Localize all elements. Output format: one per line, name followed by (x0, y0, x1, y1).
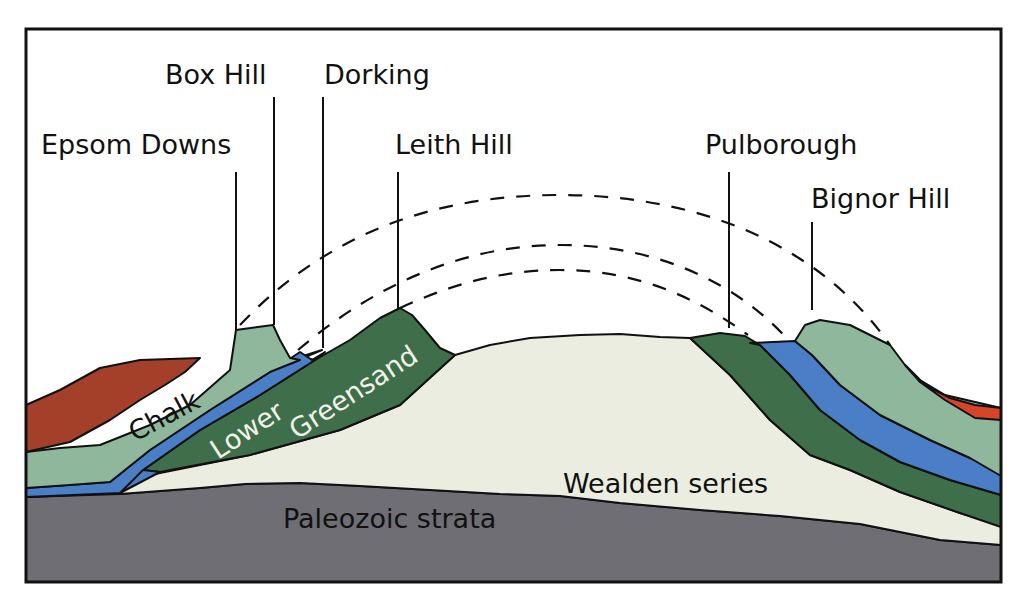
label-box-hill: Box Hill (165, 59, 267, 90)
label-pulborough: Pulborough (705, 129, 857, 160)
geological-cross-section: Box Hill Dorking Epsom Downs Leith Hill … (0, 0, 1027, 608)
label-dorking: Dorking (324, 59, 430, 90)
label-leith-hill: Leith Hill (395, 129, 513, 160)
label-wealden-series: Wealden series (563, 468, 768, 499)
label-epsom-downs: Epsom Downs (41, 129, 231, 160)
label-paleozoic-strata: Paleozoic strata (283, 503, 496, 534)
label-bignor-hill: Bignor Hill (811, 183, 950, 214)
